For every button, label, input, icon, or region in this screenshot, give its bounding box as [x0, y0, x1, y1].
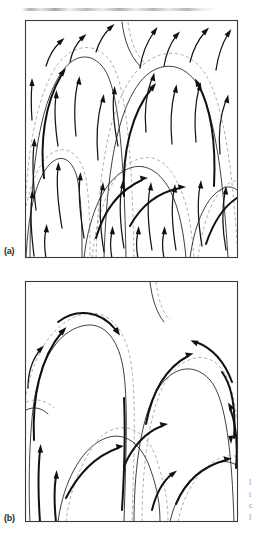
margin-caption: l t c l: [249, 477, 265, 523]
margin-caption-line: t: [249, 489, 265, 501]
figure-root: (a) (b) l t c l: [0, 0, 265, 541]
panel-b-frame: [26, 282, 238, 522]
margin-caption-line: l: [249, 512, 265, 524]
panel-a: [0, 0, 265, 265]
margin-caption-line: l: [249, 477, 265, 489]
panel-a-label: (a): [4, 247, 14, 256]
margin-caption-line: c: [249, 500, 265, 512]
panel-b: [0, 278, 265, 541]
panel-b-label: (b): [4, 514, 15, 523]
